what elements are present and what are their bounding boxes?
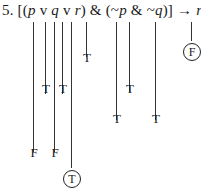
branch-line <box>71 22 72 168</box>
truth-value: T <box>59 82 67 95</box>
var-q: q <box>155 2 163 18</box>
formula-part: v <box>36 2 52 18</box>
formula-part: v <box>59 2 75 18</box>
var-p: p <box>28 2 36 18</box>
branch-line <box>191 22 192 41</box>
problem-number: 5. <box>2 2 14 18</box>
branch-line <box>155 22 156 120</box>
circled-truth-value: F <box>183 43 201 61</box>
branch-line <box>54 22 55 152</box>
branch-line <box>116 22 117 120</box>
truth-value: T <box>126 82 134 95</box>
truth-value: T <box>42 82 50 95</box>
formula: 5. [(p v q v r) & (~p & ~q)] → r <box>2 2 201 19</box>
truth-value: F <box>30 146 37 159</box>
circled-truth-value: T <box>63 170 81 188</box>
formula-part: )] → <box>163 2 197 18</box>
formula-part: ) & (~ <box>81 2 119 18</box>
truth-value: T <box>152 112 160 125</box>
formula-part: & ~ <box>127 2 155 18</box>
truth-value: T <box>83 51 91 64</box>
branch-line <box>33 22 34 152</box>
var-q: q <box>51 2 59 18</box>
truth-value: T <box>113 112 121 125</box>
var-p: p <box>119 2 127 18</box>
truth-value: F <box>51 146 58 159</box>
formula-part: [( <box>18 2 28 18</box>
var-r: r <box>196 2 201 18</box>
